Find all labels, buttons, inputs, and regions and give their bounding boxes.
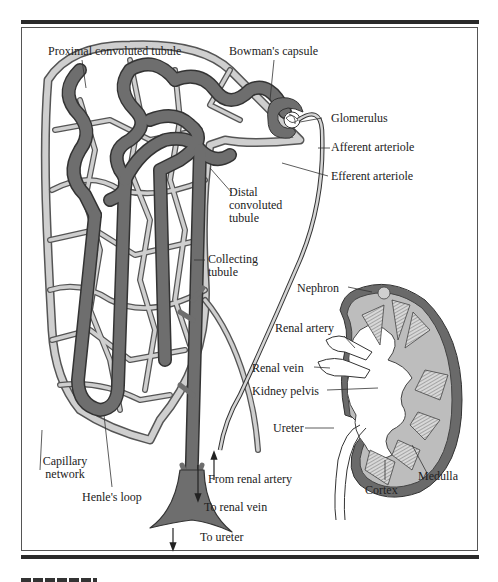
nephron-kidney-diagram bbox=[0, 0, 498, 582]
label-kidney-pelvis: Kidney pelvis bbox=[252, 385, 319, 398]
label-ureter: Ureter bbox=[273, 422, 304, 435]
label-henles-loop: Henle's loop bbox=[82, 491, 142, 504]
label-medulla: Medulla bbox=[418, 470, 458, 483]
label-nephron: Nephron bbox=[297, 282, 339, 295]
label-renal-vein: Renal vein bbox=[252, 362, 304, 375]
label-renal-artery: Renal artery bbox=[275, 322, 334, 335]
label-to-renal-vein: To renal vein bbox=[204, 501, 267, 514]
label-collecting-2: tubule bbox=[208, 266, 238, 279]
label-efferent-arteriole: Efferent arteriole bbox=[331, 170, 413, 183]
label-bowmans-capsule: Bowman's capsule bbox=[229, 45, 318, 58]
label-capillary-2: network bbox=[38, 468, 92, 481]
label-to-ureter: To ureter bbox=[200, 531, 243, 544]
label-distal-3: tubule bbox=[229, 212, 259, 225]
label-cortex: Cortex bbox=[365, 484, 398, 497]
kidney-nephron-marker bbox=[378, 287, 390, 299]
label-glomerulus: Glomerulus bbox=[331, 112, 388, 125]
label-proximal-convoluted-tubule: Proximal convoluted tubule bbox=[48, 45, 181, 58]
label-afferent-arteriole: Afferent arteriole bbox=[331, 141, 414, 154]
label-from-renal-artery: From renal artery bbox=[208, 473, 292, 486]
